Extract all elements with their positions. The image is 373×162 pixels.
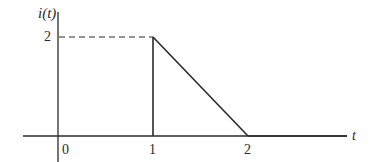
waveform-plot: [0, 0, 373, 162]
y-axis-label: i(t): [38, 6, 56, 21]
x-tick-label-1: 1: [149, 143, 156, 157]
waveform-ramp: [153, 37, 248, 136]
y-tick-label-2: 2: [44, 30, 51, 44]
x-axis-label: t: [352, 129, 356, 143]
x-tick-label-0: 0: [62, 143, 69, 157]
x-tick-label-2: 2: [244, 143, 251, 157]
waveform-diagram: i(t) 2 0 1 2 t: [0, 0, 373, 162]
